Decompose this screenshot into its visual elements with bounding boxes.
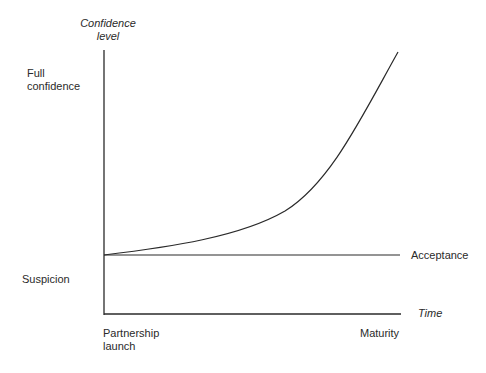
x-axis-title: Time xyxy=(418,307,442,320)
partnership-launch-label: Partnership launch xyxy=(103,327,159,353)
partnership-launch-line1: Partnership xyxy=(103,327,159,340)
full-confidence-label: Full confidence xyxy=(27,67,80,93)
suspicion-label: Suspicion xyxy=(22,273,70,286)
maturity-label: Maturity xyxy=(360,327,399,340)
full-confidence-line1: Full xyxy=(27,67,80,80)
y-axis-title-line1: Confidence xyxy=(80,17,136,30)
diagram-canvas xyxy=(0,0,486,373)
y-axis-title-line2: level xyxy=(80,30,136,43)
acceptance-label: Acceptance xyxy=(411,249,468,262)
confidence-curve xyxy=(104,52,398,255)
partnership-launch-line2: launch xyxy=(103,340,159,353)
y-axis-title: Confidence level xyxy=(80,17,136,43)
full-confidence-line2: confidence xyxy=(27,80,80,93)
